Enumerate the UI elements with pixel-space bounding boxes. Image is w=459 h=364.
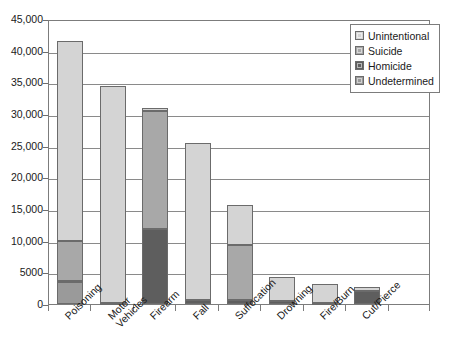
legend-item-label: Unintentional	[368, 30, 429, 42]
x-axis-category-label: Fire/Burn	[318, 283, 356, 321]
x-axis-category-label: Firearm	[148, 288, 181, 321]
legend-color-swatch-icon	[355, 76, 364, 85]
legend-item-label: Undetermined	[368, 75, 434, 87]
legend-item: Undetermined	[355, 73, 434, 88]
stacked-bar-chart: 0500010,00015,00020,00025,00030,00035,00…	[0, 0, 459, 364]
x-axis-category-label-line: Fire/Burn	[318, 283, 356, 321]
legend-color-swatch-icon	[355, 46, 364, 55]
legend-item-label: Suicide	[368, 45, 402, 57]
x-axis-category-label: Suffocation	[233, 277, 278, 322]
x-axis-category-label-line: Firearm	[148, 288, 181, 321]
x-axis-category-label: Fall	[191, 302, 211, 322]
x-axis-category-label: Cut/Pierce	[360, 279, 402, 321]
legend-item-label: Homicide	[368, 60, 412, 72]
legend-item: Unintentional	[355, 28, 434, 43]
x-axis-category-label: MotorVehicles	[106, 286, 149, 329]
x-axis-category-label-line: Cut/Pierce	[360, 279, 402, 321]
x-axis-category-label-line: Poisoning	[63, 281, 103, 321]
x-axis-category-label: Poisoning	[63, 281, 103, 321]
x-axis-category-label-line: Drowning	[275, 283, 314, 322]
legend-color-swatch-icon	[355, 61, 364, 70]
legend-item: Suicide	[355, 43, 434, 58]
x-axis-category-label-line: Suffocation	[233, 277, 278, 322]
legend-item: Homicide	[355, 58, 434, 73]
chart-legend: UnintentionalSuicideHomicideUndetermined	[350, 24, 440, 93]
x-axis-category-label-line: Fall	[191, 302, 211, 322]
x-axis-category-label: Drowning	[275, 283, 314, 322]
legend-color-swatch-icon	[355, 31, 364, 40]
